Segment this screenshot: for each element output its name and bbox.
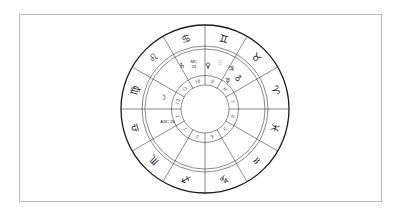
zodiac-sign-gemini-icon: ♊	[218, 31, 230, 45]
house-number-2: 2	[182, 126, 188, 132]
house-ring-inner-circle	[181, 85, 229, 133]
house-ring-outer-circle	[171, 75, 238, 142]
zodiac-sign-capricorn-icon: ♑	[218, 172, 230, 186]
zodiac-sign-aquarius-icon: ♒	[249, 153, 264, 168]
zodiac-sign-taurus-icon: ♉	[249, 50, 264, 65]
planet-moon-icon: ☽	[159, 93, 166, 102]
zodiac-sign-aries-icon: ♈	[268, 84, 282, 96]
planet-saturn-icon: ♄	[179, 61, 186, 70]
zodiac-sign-sagittarius-icon: ♐	[180, 172, 192, 186]
planet-mars-icon: ♂	[235, 74, 242, 83]
zodiac-sign-scorpio-icon: ♏	[145, 153, 161, 169]
house-number-7: 7	[230, 100, 236, 104]
house-number-5: 5	[222, 126, 228, 132]
chart-card: ♈♉♊♋♌♍♎♏♐♑♒♓123456789101112♄♀☉♃☿♂☽MC23AS…	[19, 14, 382, 202]
zodiac-sign-virgo-icon: ♍	[127, 84, 141, 96]
planet-jupiter-icon: ♃	[228, 64, 235, 73]
natal-chart-svg: ♈♉♊♋♌♍♎♏♐♑♒♓123456789101112♄♀☉♃☿♂☽MC23AS…	[20, 15, 383, 201]
zodiac-sign-pisces-icon: ♓	[268, 122, 282, 134]
zodiac-sign-libra-icon: ♎	[127, 122, 141, 134]
house-number-11: 11	[181, 85, 189, 93]
house-number-1: 1	[175, 114, 181, 118]
planet-sun-icon: ☉	[217, 59, 223, 67]
zodiac-sign-leo-icon: ♌	[146, 50, 161, 65]
house-number-8: 8	[222, 86, 228, 92]
house-number-4: 4	[210, 134, 214, 140]
house-number-12: 12	[174, 98, 180, 105]
house-number-10: 10	[194, 78, 201, 84]
house-number-6: 6	[230, 114, 236, 118]
house-number-3: 3	[195, 134, 199, 140]
planet-mercury-icon: ☿	[225, 76, 230, 85]
planet-venus-icon: ♀	[205, 61, 211, 70]
screenshot-root: ♈♉♊♋♌♍♎♏♐♑♒♓123456789101112♄♀☉♃☿♂☽MC23AS…	[0, 0, 402, 217]
asc-label: ASC 20	[160, 119, 175, 124]
mc-label-line-1: MC	[191, 59, 198, 64]
mc-label-line-2: 23	[191, 64, 196, 69]
zodiac-sign-cancer-icon: ♋	[180, 31, 192, 45]
house-number-9: 9	[210, 79, 214, 85]
